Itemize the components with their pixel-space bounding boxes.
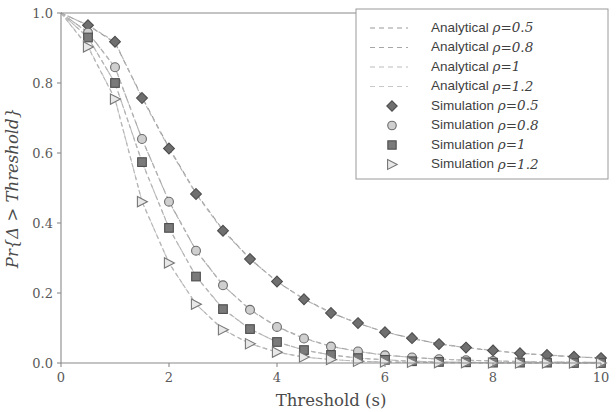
legend-item-rho: ρ=1.2 bbox=[492, 77, 534, 93]
data-point-marker bbox=[299, 294, 310, 305]
data-point-marker bbox=[192, 246, 201, 255]
data-point-marker bbox=[273, 338, 282, 347]
y-axis-title: Pr{Δ > Threshold} bbox=[3, 108, 22, 269]
legend-item-label: Simulation ρ=1 bbox=[431, 136, 526, 152]
x-tick-label: 10 bbox=[593, 370, 610, 385]
y-tick-label: 0.4 bbox=[32, 216, 53, 231]
legend-item-label: Analytical ρ=0.5 bbox=[431, 19, 533, 35]
data-point-marker bbox=[137, 93, 148, 104]
data-point-marker bbox=[218, 225, 229, 236]
data-point-marker bbox=[434, 339, 445, 350]
legend-item-label: Analytical ρ=1.2 bbox=[431, 77, 533, 93]
legend-item-rho: ρ=1.2 bbox=[497, 155, 539, 171]
legend-item-rho: ρ=0.5 bbox=[492, 19, 534, 35]
data-point-marker bbox=[218, 325, 228, 335]
data-point-marker bbox=[110, 36, 121, 47]
data-point-marker bbox=[246, 305, 255, 314]
legend-item-label: Analytical ρ=0.8 bbox=[431, 38, 534, 54]
chart-figure: 02468100.00.20.40.60.81.0 Threshold (s)P… bbox=[0, 0, 616, 412]
data-point-marker bbox=[137, 197, 147, 207]
data-point-marker bbox=[219, 281, 228, 290]
y-tick-label: 0.2 bbox=[32, 286, 53, 301]
data-point-marker bbox=[111, 63, 120, 72]
legend-item-label: Analytical ρ=1 bbox=[431, 58, 520, 74]
data-point-marker bbox=[138, 158, 147, 167]
data-point-marker bbox=[84, 33, 93, 42]
data-point-marker bbox=[245, 339, 255, 349]
chart-canvas: 02468100.00.20.40.60.81.0 Threshold (s)P… bbox=[0, 0, 616, 412]
legend-item-rho: ρ=1 bbox=[492, 58, 521, 74]
legend: Analytical ρ=0.5Analytical ρ=0.8Analytic… bbox=[356, 9, 608, 179]
y-tick-label: 0.0 bbox=[32, 356, 53, 371]
data-point-marker bbox=[164, 143, 175, 154]
x-tick-label: 4 bbox=[273, 370, 281, 385]
data-point-marker bbox=[138, 135, 147, 144]
data-point-marker bbox=[164, 258, 174, 268]
x-axis-title: Threshold (s) bbox=[276, 391, 387, 410]
data-point-marker bbox=[300, 334, 309, 343]
legend-marker-swatch bbox=[388, 141, 396, 149]
data-point-marker bbox=[461, 342, 472, 353]
x-tick-label: 0 bbox=[57, 370, 65, 385]
data-point-marker bbox=[327, 342, 336, 351]
x-tick-label: 8 bbox=[489, 370, 497, 385]
data-point-marker bbox=[165, 224, 174, 233]
data-point-marker bbox=[272, 276, 283, 287]
y-tick-label: 0.8 bbox=[32, 76, 53, 91]
legend-item-rho: ρ=0.8 bbox=[497, 116, 539, 132]
legend-item-label: Simulation ρ=0.5 bbox=[431, 97, 539, 113]
data-point-marker bbox=[326, 308, 337, 319]
data-point-marker bbox=[272, 347, 282, 357]
x-tick-label: 2 bbox=[165, 370, 173, 385]
legend-item-label: Simulation ρ=1.2 bbox=[431, 155, 539, 171]
legend-item-rho: ρ=0.8 bbox=[492, 38, 534, 54]
data-point-marker bbox=[192, 272, 201, 281]
x-tick-label: 6 bbox=[381, 370, 389, 385]
y-tick-label: 0.6 bbox=[32, 146, 53, 161]
data-point-marker bbox=[111, 79, 120, 88]
data-point-marker bbox=[165, 197, 174, 206]
data-point-marker bbox=[273, 323, 282, 332]
y-tick-label: 1.0 bbox=[32, 6, 53, 21]
legend-item-rho: ρ=1 bbox=[497, 136, 526, 152]
data-point-marker bbox=[353, 318, 364, 329]
legend-item-label: Simulation ρ=0.8 bbox=[431, 116, 539, 132]
data-point-marker bbox=[407, 333, 418, 344]
data-point-marker bbox=[380, 327, 391, 338]
data-point-marker bbox=[219, 305, 228, 314]
data-point-marker bbox=[488, 345, 499, 356]
legend-item-rho: ρ=0.5 bbox=[497, 97, 539, 113]
legend-marker-swatch bbox=[388, 121, 397, 130]
data-point-marker bbox=[246, 325, 255, 334]
